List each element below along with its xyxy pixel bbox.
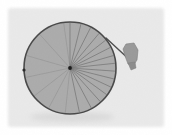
- film-grain-overlay: [0, 0, 172, 135]
- screenshot-root: [0, 0, 172, 135]
- wheel-figure-layer: [0, 0, 172, 135]
- wheel-svg: [0, 0, 172, 135]
